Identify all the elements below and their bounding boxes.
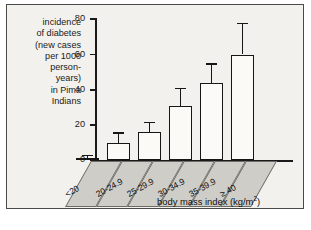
y-tick-mark <box>90 124 95 126</box>
plot-area: incidence of diabetes (new cases per 100… <box>7 5 305 210</box>
bar <box>169 106 192 161</box>
error-bar-cap <box>175 88 186 89</box>
category-cell: <20 <box>65 161 96 207</box>
error-bar-stem <box>211 63 212 82</box>
category-base-plate: <2020-24.925-29.930-34.935-39.9≥ 40 <box>7 157 305 213</box>
error-bar-cap <box>144 122 155 123</box>
x-axis-title-end: ) <box>257 196 260 207</box>
y-tick-label: 40 <box>55 85 85 94</box>
error-bar-stem <box>180 88 181 106</box>
bar <box>107 143 130 161</box>
y-caption-line: person- <box>13 62 81 73</box>
y-tick-mark <box>90 54 95 56</box>
y-caption-line: years) <box>13 73 81 84</box>
category-cell: 20-24.9 <box>96 161 127 207</box>
y-tick-label: 60 <box>55 50 85 59</box>
y-tick-label: 20 <box>55 120 85 129</box>
bar <box>138 132 161 160</box>
bar <box>200 83 223 161</box>
y-tick-mark <box>90 18 95 20</box>
y-axis-line <box>95 18 97 162</box>
y-tick-label: 80 <box>55 14 85 23</box>
error-bar-cap <box>113 132 124 133</box>
x-axis-title-main: body mass index (kg/m <box>157 196 253 207</box>
y-tick-mark <box>90 89 95 91</box>
error-bar-cap <box>206 63 217 64</box>
error-bar-cap <box>82 155 93 156</box>
y-caption-line: of diabetes <box>13 28 81 39</box>
y-caption-line: Indians <box>13 96 81 107</box>
y-axis-caption: incidence of diabetes (new cases per 100… <box>13 17 81 107</box>
error-bar-stem <box>118 132 119 143</box>
category-cell: 25-29.9 <box>127 161 158 207</box>
error-bar-stem <box>149 122 150 133</box>
chart-frame: incidence of diabetes (new cases per 100… <box>6 4 304 209</box>
figure-container: incidence of diabetes (new cases per 100… <box>0 0 311 230</box>
bar <box>76 158 99 161</box>
x-axis-title: body mass index (kg/m2) <box>157 195 260 207</box>
bar <box>231 55 254 161</box>
error-bar-stem <box>242 23 243 55</box>
error-bar-cap <box>237 23 248 24</box>
